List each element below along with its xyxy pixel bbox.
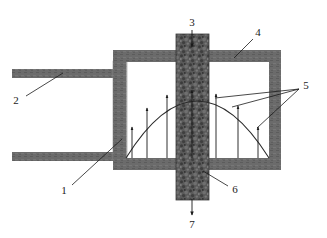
- figure-canvas: 1 2 3 4 5 6 7: [0, 0, 327, 238]
- reference-numerals: 1 2 3 4 5 6 7: [13, 16, 309, 230]
- chamber-left-wall: [113, 50, 126, 170]
- ref-numeral-3: 3: [189, 16, 195, 28]
- inlet-duct-upper-wall: [12, 69, 118, 78]
- ref-numeral-4: 4: [255, 26, 261, 38]
- ref-numeral-1: 1: [61, 184, 67, 196]
- ref-numeral-5: 5: [303, 79, 309, 91]
- inlet-duct-assembly: [12, 69, 118, 161]
- ref-numeral-6: 6: [232, 183, 238, 195]
- ref-numeral-2: 2: [13, 94, 19, 106]
- inlet-duct-lower-wall: [12, 152, 118, 161]
- center-packed-column: [176, 34, 209, 200]
- leader-line-5a: [215, 89, 299, 98]
- chamber-right-wall: [269, 50, 281, 170]
- ref-numeral-7: 7: [189, 218, 195, 230]
- patent-figure: 1 2 3 4 5 6 7: [0, 0, 327, 238]
